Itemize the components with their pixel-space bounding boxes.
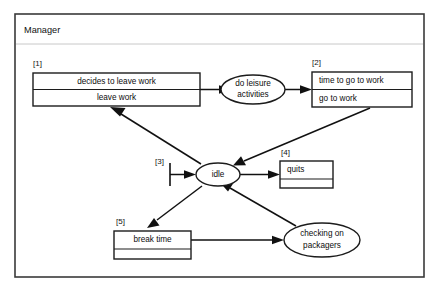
state-box-1-row-top: decides to leave work bbox=[77, 77, 157, 86]
state-ellipse-checking-on-packagers[interactable]: checking on packagers bbox=[284, 223, 360, 257]
state-box-5-row-top: break time bbox=[133, 235, 172, 244]
do-leisure-line-1: do leisure bbox=[235, 79, 271, 88]
tag-label-4: [4] bbox=[281, 148, 290, 157]
tag-label-1: [1] bbox=[33, 59, 42, 68]
state-box-1[interactable]: decides to leave work leave work bbox=[33, 73, 200, 106]
state-box-2-row-top: time to go to work bbox=[319, 76, 385, 85]
state-ellipse-do-leisure-activities[interactable]: do leisure activities bbox=[221, 75, 285, 104]
state-box-1-row-bottom: leave work bbox=[97, 93, 137, 102]
statechart-diagram-canvas: Manager [1] [2] [3] [4] [5] bbox=[0, 0, 439, 290]
state-ellipse-idle[interactable]: idle bbox=[196, 163, 240, 186]
idle-label: idle bbox=[212, 170, 225, 179]
manager-frame bbox=[15, 14, 424, 277]
do-leisure-line-2: activities bbox=[237, 90, 268, 99]
diagram-svg: Manager [1] [2] [3] [4] [5] bbox=[0, 0, 439, 290]
state-box-5[interactable]: break time bbox=[114, 231, 191, 259]
frame-title: Manager bbox=[24, 25, 60, 35]
checking-packagers-line-2: packagers bbox=[303, 241, 341, 250]
state-box-4[interactable]: quits bbox=[280, 161, 333, 188]
state-box-2[interactable]: time to go to work go to work bbox=[312, 72, 412, 107]
tag-label-3: [3] bbox=[155, 157, 164, 166]
tag-label-5: [5] bbox=[116, 217, 125, 226]
state-box-4-row-top: quits bbox=[287, 165, 304, 174]
checking-packagers-line-1: checking on bbox=[300, 229, 344, 238]
state-box-2-row-bottom: go to work bbox=[319, 94, 358, 103]
tag-label-2: [2] bbox=[312, 58, 321, 67]
